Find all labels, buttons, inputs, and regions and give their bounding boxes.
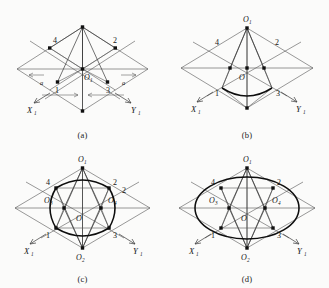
panel-d-number-2: 2 xyxy=(277,178,281,187)
panel-d-caption: (d) xyxy=(165,274,329,284)
panel-c-number-4: 4 xyxy=(46,178,50,187)
panel-a-axis-x-label: X xyxy=(26,105,33,115)
panel-a-axis-y-sub: 1 xyxy=(138,110,141,116)
panel-b-axis-y-sub: 1 xyxy=(303,109,306,115)
panel-c-number-3: 3 xyxy=(113,231,117,240)
panel-b: O 1 4 2 1 3 O X 1 Y 1 (b) xyxy=(165,0,329,144)
panel-a-number-1: 1 xyxy=(55,86,59,95)
panel-c: O 1 4 2 2 1 3 O 3 O 4 O O 2 X 1 Y 1 (c) xyxy=(0,144,165,288)
panel-b-apex-sub: 1 xyxy=(249,19,252,25)
panel-c-apex-sub: 1 xyxy=(84,159,87,165)
panel-a-drawing: 4 2 1 3 O 1 a a X 1 Y 1 xyxy=(0,0,165,144)
panel-a-center-sub: 1 xyxy=(90,77,93,83)
panel-a-number-2: 2 xyxy=(113,36,117,45)
panel-d-number-3: 3 xyxy=(277,231,281,240)
panel-d-number-4: 4 xyxy=(211,178,215,187)
panel-c-axis-x-label: X xyxy=(23,246,30,256)
panel-d: O 1 4 2 1 3 O 3 O 4 O O 2 X 1 Y 1 (d) xyxy=(165,144,329,288)
panel-d-bottom-sub: 2 xyxy=(247,257,250,263)
panel-d-number-1: 1 xyxy=(211,231,215,240)
panel-c-center-label: O xyxy=(76,214,82,223)
panel-c-drawing: O 1 4 2 2 1 3 O 3 O 4 O O 2 X 1 Y 1 xyxy=(0,144,165,288)
panel-b-number-3: 3 xyxy=(276,89,280,98)
panel-c-number-2-lower: 2 xyxy=(122,186,126,195)
panel-d-axis-y-label: Y xyxy=(297,246,303,256)
panel-d-drawing: O 1 4 2 1 3 O 3 O 4 O O 2 X 1 Y 1 xyxy=(165,144,329,288)
panel-b-axis-y-label: Y xyxy=(296,104,302,114)
panel-d-right-sub: 4 xyxy=(278,200,281,206)
panel-d-apex-sub: 1 xyxy=(249,159,252,165)
panel-d-left-sub: 3 xyxy=(215,200,218,206)
panel-a-number-4: 4 xyxy=(53,36,57,45)
figure-grid: 4 2 1 3 O 1 a a X 1 Y 1 (a) xyxy=(0,0,329,288)
panel-c-left-sub: 3 xyxy=(50,200,53,206)
panel-a-caption: (a) xyxy=(0,130,165,140)
panel-b-drawing: O 1 4 2 1 3 O X 1 Y 1 xyxy=(165,0,329,144)
panel-b-caption: (b) xyxy=(165,130,329,140)
panel-a-dimension-a-right: a xyxy=(122,79,125,86)
panel-c-caption: (c) xyxy=(0,274,165,284)
panel-a-dimension-a-left: a xyxy=(40,79,43,86)
panel-b-number-4: 4 xyxy=(215,38,219,47)
panel-b-number-2: 2 xyxy=(275,38,279,47)
panel-d-axis-x-sub: 1 xyxy=(196,251,199,257)
panel-c-axis-y-label: Y xyxy=(133,246,139,256)
panel-c-number-1: 1 xyxy=(46,231,50,240)
panel-c-bottom-sub: 2 xyxy=(82,257,85,263)
panel-c-axis-x-sub: 1 xyxy=(31,251,34,257)
panel-c-right-sub: 4 xyxy=(114,200,117,206)
panel-a-number-3: 3 xyxy=(106,86,110,95)
panel-b-number-1: 1 xyxy=(215,89,219,98)
panel-d-axis-x-label: X xyxy=(188,246,195,256)
panel-b-axis-x-sub: 1 xyxy=(198,109,201,115)
panel-d-axis-y-sub: 1 xyxy=(304,251,307,257)
panel-c-axis-y-sub: 1 xyxy=(140,251,143,257)
panel-b-axis-x-label: X xyxy=(190,104,197,114)
panel-a: 4 2 1 3 O 1 a a X 1 Y 1 (a) xyxy=(0,0,165,144)
panel-a-axis-y-label: Y xyxy=(131,105,137,115)
panel-d-center-label: O xyxy=(241,214,247,223)
panel-a-axis-x-sub: 1 xyxy=(34,110,37,116)
panel-b-center-label: O xyxy=(239,73,245,82)
panel-c-number-2-upper: 2 xyxy=(113,178,117,187)
